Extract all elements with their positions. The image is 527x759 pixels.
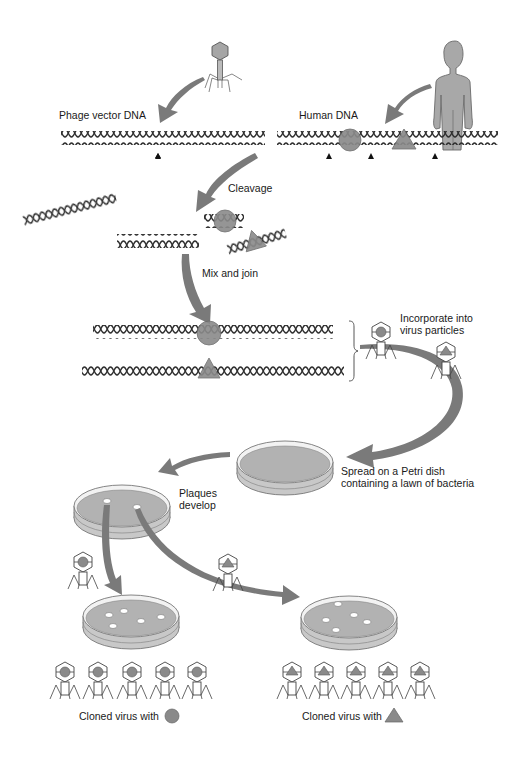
circle-insert: [197, 321, 221, 345]
circle-gene-fragment: [339, 129, 361, 151]
arrow-human-to-dna: [385, 84, 432, 124]
human-dna-strand: [277, 131, 498, 145]
label-cleavage: Cleavage: [228, 182, 272, 194]
cloned-viruses-triangle: [277, 662, 435, 699]
petri-dish-lawn: [237, 441, 333, 495]
label-human-dna: Human DNA: [299, 109, 358, 121]
label-plaques-line1: Plaques: [179, 487, 217, 499]
petri-dish-triangle-clones: [301, 596, 397, 650]
label-spread-line2: containing a lawn of bacteria: [341, 477, 474, 489]
cloned-phage-circle-icon: [68, 552, 98, 589]
legend-triangle-icon: [385, 708, 403, 722]
phage-vector-dna-strand: [61, 131, 265, 145]
grouping-brace: [349, 321, 358, 381]
label-cloned-virus-circle: Cloned virus with: [79, 710, 159, 722]
label-incorporate-line1: Incorporate into: [400, 312, 473, 324]
circle-fragment-cleaved: [204, 210, 244, 232]
arrow-to-plaques: [158, 452, 230, 476]
label-phage-vector-dna: Phage vector DNA: [59, 109, 146, 121]
bacteriophage-icon: [205, 42, 242, 92]
label-cloned-virus-triangle: Cloned virus with: [302, 710, 382, 722]
cloned-viruses-circle: [50, 662, 212, 699]
label-incorporate-line2: virus particles: [400, 324, 464, 336]
vector-arm-right: [117, 234, 199, 248]
label-plaques-line2: develop: [179, 499, 216, 511]
cut-site-markers-human: [326, 153, 438, 159]
petri-dish-plaques: [74, 485, 170, 539]
arrow-phage-to-vector: [158, 77, 205, 123]
cut-site-marker-vector: [155, 153, 161, 159]
label-mix-and-join: Mix and join: [202, 267, 258, 279]
label-spread-line1: Spread on a Petri dish: [341, 465, 445, 477]
arrow-mix-and-join: [182, 254, 211, 324]
petri-dish-circle-clones: [83, 595, 179, 649]
virus-particle-circle-icon: [366, 322, 396, 359]
vector-arm-left: [22, 191, 118, 228]
legend-circle-icon: [165, 709, 179, 723]
